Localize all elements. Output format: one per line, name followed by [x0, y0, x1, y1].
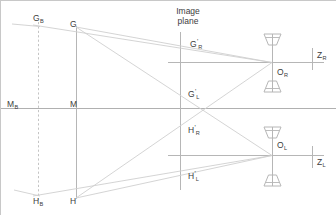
label-h: H	[70, 197, 76, 206]
label-m: M	[70, 100, 77, 109]
label-o-l: OL	[277, 141, 287, 150]
label-z-l: ZL	[317, 158, 326, 167]
label-z-r: ZR	[317, 51, 326, 60]
image-plane-title: Image plane	[160, 6, 216, 26]
label-o-r: OR	[277, 68, 288, 77]
ray-hb-to-ol	[33, 156, 272, 197]
ray-h-to-or	[76, 63, 272, 199]
ray-g-to-ol	[76, 27, 272, 156]
label-m-b: MB	[7, 100, 18, 109]
label-h-l-prime: H'L	[188, 172, 199, 181]
label-g: G	[70, 20, 77, 29]
ray-g-to-or	[76, 27, 272, 63]
image-plane-title-line1: Image	[176, 6, 200, 16]
label-g-r-prime: G'R	[190, 40, 202, 49]
diagram-canvas	[0, 0, 336, 215]
ray-h-to-ol	[76, 156, 272, 199]
label-g-b: GB	[33, 14, 44, 23]
diagram-root: Image plane GB G MB M HB H G'R G'L H'R H…	[0, 0, 336, 215]
label-h-b: HB	[33, 197, 43, 206]
ray-gb-to-or	[33, 25, 272, 63]
label-g-l-prime: G'L	[188, 90, 199, 99]
label-h-r-prime: H'R	[188, 126, 200, 135]
image-plane-title-line2: plane	[178, 16, 199, 26]
